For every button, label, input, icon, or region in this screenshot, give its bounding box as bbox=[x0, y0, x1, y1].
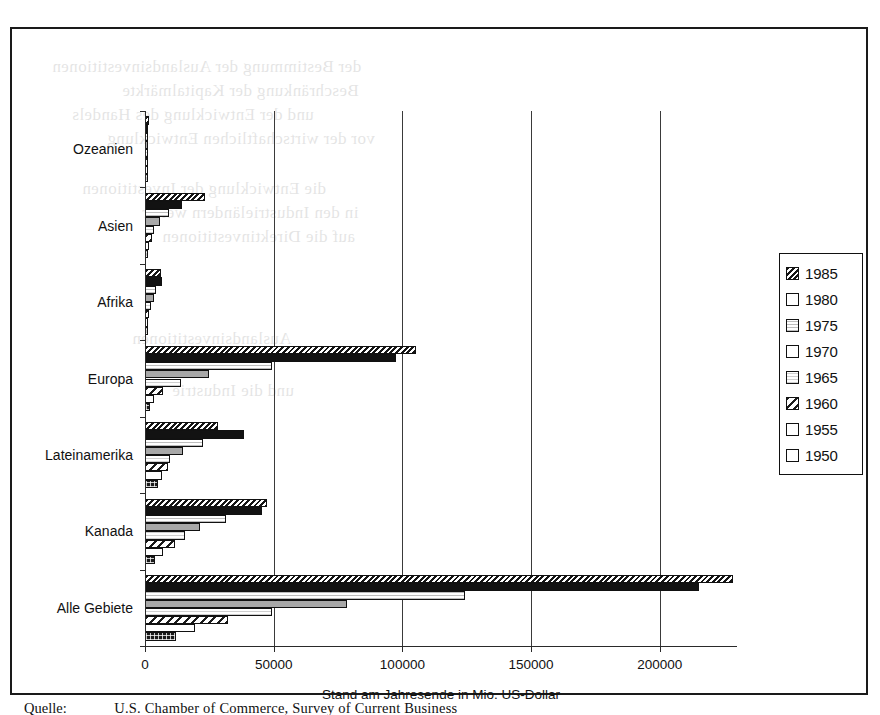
x-tick-200000 bbox=[660, 646, 661, 652]
y-tick-6 bbox=[140, 570, 146, 571]
source-value: U.S. Chamber of Commerce, Survey of Curr… bbox=[114, 700, 457, 715]
bar-alle-gebiete-1970 bbox=[146, 600, 347, 608]
legend-swatch-1980-icon bbox=[786, 293, 799, 306]
category-label-kanada: Kanada bbox=[85, 523, 133, 539]
bar-europa-1975 bbox=[146, 362, 272, 370]
bar-afrika-1965 bbox=[146, 302, 151, 310]
x-tick-50000 bbox=[274, 646, 275, 652]
category-label-ozeanien: Ozeanien bbox=[73, 141, 133, 157]
gridline-150000 bbox=[531, 111, 532, 646]
legend-swatch-1970-icon bbox=[786, 345, 799, 358]
gridline-200000 bbox=[660, 111, 661, 646]
y-tick-3 bbox=[140, 340, 146, 341]
source-caption: Quelle: U.S. Chamber of Commerce, Survey… bbox=[24, 700, 864, 715]
bar-asien-1985 bbox=[146, 193, 205, 201]
legend-label-1960: 1960 bbox=[805, 395, 838, 412]
legend-swatch-1985-icon bbox=[786, 267, 799, 280]
legend-item-1965[interactable]: 1965 bbox=[786, 364, 855, 390]
bar-alle-gebiete-1980 bbox=[146, 583, 699, 591]
bar-kanada-1970 bbox=[146, 523, 200, 531]
x-tick-label-0: 0 bbox=[141, 657, 149, 672]
legend-label-1955: 1955 bbox=[805, 421, 838, 438]
bar-asien-1975 bbox=[146, 209, 169, 217]
category-label-alle-gebiete: Alle Gebiete bbox=[57, 600, 133, 616]
bar-kanada-1980 bbox=[146, 507, 262, 515]
gridline-100000 bbox=[402, 111, 403, 646]
bar-kanada-1960 bbox=[146, 540, 175, 548]
figure-page: der Bestimmung der Auslandsinvestitionen… bbox=[0, 0, 880, 715]
legend-items: 19851980197519701965196019551950 bbox=[786, 260, 855, 468]
bar-asien-1980 bbox=[146, 201, 182, 209]
bar-afrika-1975 bbox=[146, 286, 156, 294]
legend-label-1975: 1975 bbox=[805, 317, 838, 334]
bar-ozeanien-1970 bbox=[146, 141, 148, 149]
legend-swatch-1960-icon bbox=[786, 397, 799, 410]
bar-ozeanien-1985 bbox=[146, 116, 149, 124]
legend-swatch-1975-icon bbox=[786, 319, 799, 332]
bar-lateinamerika-1965 bbox=[146, 455, 170, 463]
legend-item-1985[interactable]: 1985 bbox=[786, 260, 855, 286]
bar-asien-1955 bbox=[146, 242, 149, 250]
bar-asien-1960 bbox=[146, 234, 152, 242]
legend-label-1950: 1950 bbox=[805, 447, 838, 464]
bar-europa-1980 bbox=[146, 354, 396, 362]
bar-kanada-1955 bbox=[146, 548, 163, 556]
y-tick-0 bbox=[140, 111, 146, 112]
bar-alle-gebiete-1965 bbox=[146, 608, 272, 616]
bar-kanada-1965 bbox=[146, 531, 185, 539]
bar-europa-1970 bbox=[146, 370, 209, 378]
x-tick-150000 bbox=[531, 646, 532, 652]
legend-item-1970[interactable]: 1970 bbox=[786, 338, 855, 364]
bar-ozeanien-1965 bbox=[146, 149, 148, 157]
x-tick-label-100000: 100000 bbox=[380, 657, 425, 672]
category-label-afrika: Afrika bbox=[97, 294, 133, 310]
bar-europa-1985 bbox=[146, 346, 416, 354]
legend-swatch-1955-icon bbox=[786, 423, 799, 436]
bar-lateinamerika-1950 bbox=[146, 480, 158, 488]
bar-alle-gebiete-1985 bbox=[146, 575, 733, 583]
legend-item-1975[interactable]: 1975 bbox=[786, 312, 855, 338]
x-tick-label-200000: 200000 bbox=[637, 657, 682, 672]
bar-europa-1960 bbox=[146, 387, 163, 395]
y-tick-2 bbox=[140, 264, 146, 265]
plot-area: 050000100000150000200000 OzeanienAsienAf… bbox=[145, 111, 737, 646]
gridline-50000 bbox=[274, 111, 275, 646]
legend-label-1965: 1965 bbox=[805, 369, 838, 386]
x-tick-label-150000: 150000 bbox=[509, 657, 554, 672]
legend-label-1985: 1985 bbox=[805, 265, 838, 282]
bar-afrika-1960 bbox=[146, 310, 149, 318]
bleed-text-line-1: der Bestimmung der Auslandsinvestitionen bbox=[52, 57, 361, 77]
bar-ozeanien-1950 bbox=[146, 174, 148, 182]
bar-ozeanien-1980 bbox=[146, 125, 148, 133]
legend-item-1960[interactable]: 1960 bbox=[786, 390, 855, 416]
bar-afrika-1970 bbox=[146, 294, 154, 302]
bar-afrika-1950 bbox=[146, 327, 148, 335]
x-tick-label-50000: 50000 bbox=[255, 657, 293, 672]
legend-swatch-1965-icon bbox=[786, 371, 799, 384]
legend-item-1955[interactable]: 1955 bbox=[786, 416, 855, 442]
y-tick-5 bbox=[140, 493, 146, 494]
bar-ozeanien-1960 bbox=[146, 157, 148, 165]
legend-swatch-1950-icon bbox=[786, 449, 799, 462]
bleed-text-line-2: Beschränkung der Kapitalmärkte bbox=[122, 81, 359, 101]
bar-lateinamerika-1980 bbox=[146, 430, 244, 438]
category-label-europa: Europa bbox=[88, 371, 133, 387]
bar-asien-1965 bbox=[146, 226, 154, 234]
bar-alle-gebiete-1950 bbox=[146, 632, 176, 640]
bar-europa-1950 bbox=[146, 403, 150, 411]
x-tick-100000 bbox=[402, 646, 403, 652]
legend-item-1980[interactable]: 1980 bbox=[786, 286, 855, 312]
bar-lateinamerika-1985 bbox=[146, 422, 218, 430]
bar-alle-gebiete-1955 bbox=[146, 624, 195, 632]
bar-lateinamerika-1970 bbox=[146, 447, 183, 455]
y-tick-1 bbox=[140, 187, 146, 188]
legend-label-1970: 1970 bbox=[805, 343, 838, 360]
bar-afrika-1985 bbox=[146, 269, 161, 277]
figure-frame: der Bestimmung der Auslandsinvestitionen… bbox=[10, 27, 868, 695]
legend-item-1950[interactable]: 1950 bbox=[786, 442, 855, 468]
bar-afrika-1980 bbox=[146, 277, 162, 285]
category-label-asien: Asien bbox=[98, 218, 133, 234]
bar-lateinamerika-1960 bbox=[146, 463, 168, 471]
category-label-lateinamerika: Lateinamerika bbox=[45, 447, 133, 463]
bar-lateinamerika-1955 bbox=[146, 471, 162, 479]
